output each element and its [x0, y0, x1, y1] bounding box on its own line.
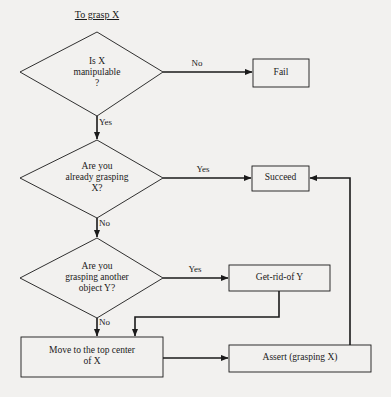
- decision-node-grasping-another-object: [20, 238, 163, 318]
- process-node-fail: [253, 59, 309, 87]
- process-node-assert-grasping-x: [229, 345, 371, 372]
- decision-node-is-x-manipulable: [20, 32, 163, 116]
- process-node-succeed: [252, 166, 309, 191]
- edge-get-rid-of-y-to-move: [135, 291, 279, 336]
- flowchart-graphics: [0, 0, 391, 397]
- decision-node-already-grasping-x: [20, 140, 163, 218]
- flowchart-canvas: To grasp X Is X manipulable ? Fail Are y…: [0, 0, 391, 397]
- process-node-get-rid-of-y: [229, 265, 330, 291]
- process-node-move-to-top-center: [21, 337, 163, 377]
- edge-assert-to-succeed: [310, 178, 350, 345]
